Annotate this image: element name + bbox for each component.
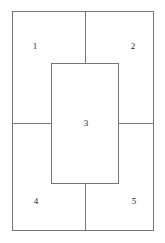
partition-diagram: 1 2 3 4 5 [0, 0, 165, 243]
region-label-1: 1 [28, 42, 42, 51]
divider-right-horizontal [118, 123, 154, 124]
region-label-4: 4 [29, 197, 43, 206]
region-label-2: 2 [126, 42, 140, 51]
region-label-3: 3 [79, 119, 93, 128]
divider-left-horizontal [12, 123, 52, 124]
region-label-5: 5 [127, 197, 141, 206]
divider-bottom-vertical [85, 183, 86, 231]
divider-top-vertical [85, 11, 86, 64]
